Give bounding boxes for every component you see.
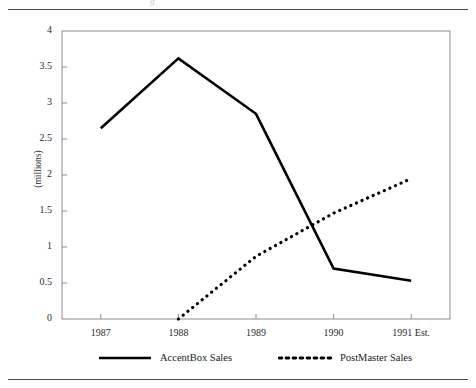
y-tick-label: 1 — [12, 240, 52, 251]
chart-page: g (millions) 00.511.522.533.54 198719881… — [0, 0, 476, 388]
legend-item-postmaster: PostMaster Sales — [278, 352, 412, 363]
y-tick-label: 4 — [12, 24, 52, 35]
y-tick-label: 1.5 — [12, 204, 52, 215]
y-tick-label: 3.5 — [12, 60, 52, 71]
y-tick-label: 2.5 — [12, 132, 52, 143]
y-tick-label: 0.5 — [12, 276, 52, 287]
x-tick-label: 1988 — [138, 327, 218, 338]
x-tick-label: 1987 — [61, 327, 141, 338]
series-layer — [101, 58, 411, 319]
x-tick-label: 1989 — [216, 327, 296, 338]
legend-item-accentbox: AccentBox Sales — [98, 352, 232, 363]
y-tick-label: 3 — [12, 96, 52, 107]
series-line-1 — [101, 58, 411, 280]
plot-frame — [62, 31, 450, 319]
chart-legend: AccentBox Sales PostMaster Sales — [62, 352, 450, 372]
x-tick-label: 1990 — [294, 327, 374, 338]
legend-swatch-dotted-line-icon — [278, 353, 332, 363]
x-tick-label: 1991 Est. — [371, 327, 451, 338]
legend-label-accentbox: AccentBox Sales — [160, 352, 232, 363]
y-tick-label: 0 — [12, 312, 52, 323]
legend-label-postmaster: PostMaster Sales — [340, 352, 412, 363]
line-chart: (millions) 00.511.522.533.54 19871988198… — [0, 0, 476, 388]
series-line-2 — [178, 179, 411, 319]
y-tick-label: 2 — [12, 168, 52, 179]
legend-swatch-solid-line-icon — [98, 353, 152, 363]
axes-layer — [62, 31, 450, 319]
